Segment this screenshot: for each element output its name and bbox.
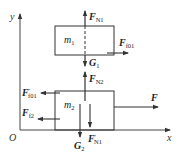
force-label-fn1-prime: F′N1 [87,133,102,145]
force-label-fn1: FN1 [88,11,104,23]
origin-label: O [9,132,16,143]
mass-label-m2: m2 [64,99,74,111]
free-body-diagram: y x O m1 FN1 Ff01 G1 m2 FN2 F′f01 Ff2 F … [0,0,181,155]
force-label-fn2: FN2 [88,73,104,85]
force-label-ff2: Ff2 [21,107,34,119]
force-label-f: F [150,92,158,103]
mass-label-m1: m1 [64,34,74,46]
force-label-g1: G1 [89,57,99,69]
y-axis-label: y [9,11,15,22]
x-axis-label: x [166,132,172,143]
force-label-ff01: Ff01 [118,37,134,49]
force-label-ff01-prime: F′f01 [21,87,37,99]
force-label-g2: G2 [74,140,84,152]
block-m1: m1 [55,26,114,55]
